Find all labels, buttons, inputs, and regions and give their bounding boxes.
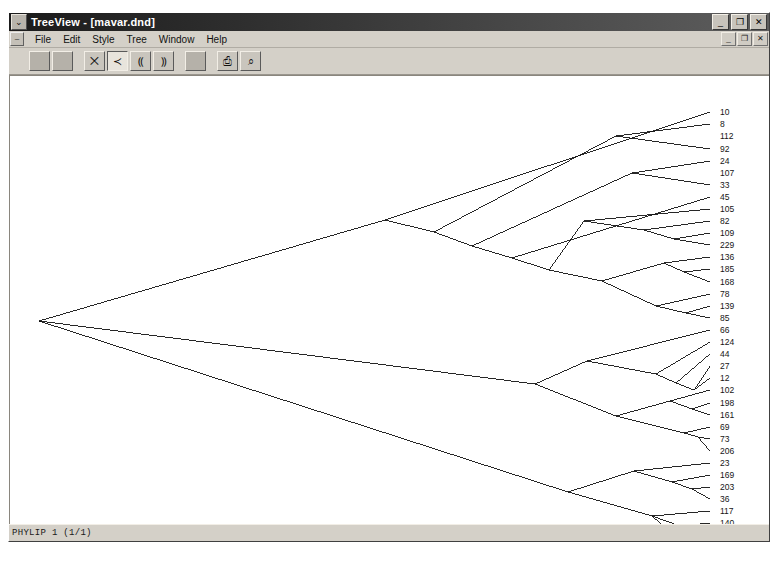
- child-close-button[interactable]: ✕: [753, 32, 768, 46]
- tree-branch: [672, 482, 692, 489]
- tree-tip-label[interactable]: 82: [720, 216, 730, 226]
- menu-item-help[interactable]: Help: [200, 33, 233, 46]
- tree-tip-labels: 1081129224107334510582109229136185168781…: [720, 107, 734, 524]
- tree-canvas[interactable]: 1081129224107334510582109229136185168781…: [9, 75, 769, 524]
- child-restore-button[interactable]: ❐: [737, 32, 752, 46]
- tree-tip-label[interactable]: 27: [720, 361, 730, 371]
- tree-tip-label[interactable]: 8: [720, 119, 725, 129]
- tree-branch: [632, 173, 710, 185]
- tree-tip-label[interactable]: 24: [720, 156, 730, 166]
- tree-branch: [568, 471, 634, 492]
- tree-tip-label[interactable]: 229: [720, 240, 734, 250]
- tool-blank-2[interactable]: [52, 51, 73, 71]
- tree-tip-label[interactable]: 198: [720, 398, 734, 408]
- tree-tip-label[interactable]: 168: [720, 277, 734, 287]
- tree-tip-label[interactable]: 23: [720, 458, 730, 468]
- tree-tip-label[interactable]: 124: [720, 337, 734, 347]
- tree-tip-label[interactable]: 169: [720, 470, 734, 480]
- tree-tip-label[interactable]: 45: [720, 192, 730, 202]
- restore-button[interactable]: ❐: [731, 14, 748, 30]
- tree-tip-label[interactable]: 78: [720, 289, 730, 299]
- tool-print-preview-icon: ⌕: [248, 56, 254, 67]
- tree-tip-label[interactable]: 10: [720, 107, 730, 117]
- tool-unrooted-tree-icon: ⨉: [90, 56, 99, 67]
- system-menu-icon[interactable]: ⌄: [11, 14, 27, 30]
- tree-branch: [616, 136, 710, 149]
- menu-item-edit[interactable]: Edit: [57, 33, 86, 46]
- child-system-menu-icon[interactable]: –: [10, 32, 24, 46]
- tree-tip-label[interactable]: 107: [720, 168, 734, 178]
- tree-branch: [616, 401, 670, 416]
- tree-tip-label[interactable]: 185: [720, 264, 734, 274]
- tree-branch: [656, 374, 676, 383]
- tree-tip-label[interactable]: 136: [720, 252, 734, 262]
- minimize-button[interactable]: _: [712, 14, 729, 30]
- tree-branch: [616, 124, 710, 136]
- menu-item-window[interactable]: Window: [153, 33, 201, 46]
- menu-item-tree[interactable]: Tree: [121, 33, 153, 46]
- tree-branch: [587, 361, 656, 374]
- tree-tip-label[interactable]: 206: [720, 446, 734, 456]
- tool-print-preview[interactable]: ⌕: [240, 51, 261, 71]
- tree-tip-label[interactable]: 109: [720, 228, 734, 238]
- tree-branch: [644, 221, 710, 230]
- tree-branch: [39, 321, 535, 384]
- tool-phylogram[interactable]: ⸩: [153, 51, 174, 71]
- tree-branch: [535, 384, 616, 416]
- tree-tip-label[interactable]: 66: [720, 325, 730, 335]
- tree-tip-label[interactable]: 69: [720, 422, 730, 432]
- tree-tip-label[interactable]: 161: [720, 410, 734, 420]
- tree-branch: [686, 313, 710, 318]
- tree-branch: [549, 270, 602, 281]
- tree-branch: [686, 306, 710, 313]
- tree-tip-label[interactable]: 73: [720, 434, 730, 444]
- status-bar: PHYLIP 1 (1/1): [9, 524, 769, 541]
- tree-branch: [644, 230, 674, 239]
- tree-tip-label[interactable]: 140: [720, 518, 734, 524]
- tree-tip-label[interactable]: 117: [720, 506, 734, 516]
- tool-print[interactable]: ⎙: [217, 51, 238, 71]
- tree-tip-label[interactable]: 92: [720, 144, 730, 154]
- tree-branch: [692, 489, 710, 499]
- tree-tip-label[interactable]: 85: [720, 313, 730, 323]
- tree-branch: [674, 233, 710, 239]
- tool-unrooted-tree[interactable]: ⨉: [84, 51, 105, 71]
- menu-item-style[interactable]: Style: [86, 33, 120, 46]
- tree-branch: [535, 361, 587, 384]
- tree-tip-label[interactable]: 105: [720, 204, 734, 214]
- tool-blank-3[interactable]: [185, 51, 206, 71]
- tree-branch: [676, 383, 694, 390]
- child-minimize-button[interactable]: _: [721, 32, 736, 46]
- tree-tip-label[interactable]: 12: [720, 373, 730, 383]
- tree-branch: [512, 258, 549, 270]
- tree-branch: [472, 173, 632, 246]
- tree-branch: [692, 487, 710, 489]
- tree-branch: [602, 281, 656, 306]
- tree-branch: [656, 294, 710, 306]
- tree-branch: [674, 239, 710, 245]
- tree-branch: [39, 220, 385, 321]
- menu-bar: – File Edit Style Tree Window Help _ ❐ ✕: [9, 31, 769, 48]
- tree-branch: [670, 401, 692, 409]
- menu-item-file[interactable]: File: [29, 33, 57, 46]
- close-button[interactable]: ✕: [750, 14, 767, 30]
- tree-tip-label[interactable]: 102: [720, 385, 734, 395]
- tree-branch: [385, 112, 710, 220]
- tool-blank-1[interactable]: [29, 51, 50, 71]
- tree-branch: [512, 197, 710, 258]
- tree-branch: [472, 246, 512, 258]
- tree-tip-label[interactable]: 33: [720, 180, 730, 190]
- tree-tip-label[interactable]: 36: [720, 494, 730, 504]
- tool-slanted-cladogram[interactable]: ≺: [107, 51, 128, 71]
- tree-branch: [656, 342, 710, 374]
- tree-branch: [684, 272, 710, 282]
- tree-tip-label[interactable]: 203: [720, 482, 734, 492]
- tree-branch: [616, 416, 684, 433]
- tree-branch: [652, 516, 694, 524]
- tree-tip-label[interactable]: 112: [720, 131, 734, 141]
- tree-branch: [672, 475, 710, 482]
- tree-tip-label[interactable]: 139: [720, 301, 734, 311]
- tree-tip-label[interactable]: 44: [720, 349, 730, 359]
- tool-rectangular-cladogram[interactable]: ⸨: [130, 51, 151, 71]
- title-bar: ⌄ TreeView - [mavar.dnd] _ ❐ ✕: [9, 13, 769, 31]
